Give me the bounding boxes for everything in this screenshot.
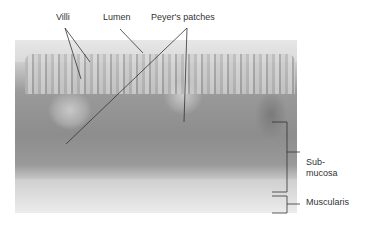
muscularis-bracket: [272, 196, 287, 213]
peyers-leader-1: [66, 28, 187, 144]
villi-leader-1: [65, 28, 90, 62]
villi-leader-2: [65, 28, 81, 79]
lumen-leader: [120, 29, 143, 53]
peyers-leader-2: [184, 28, 187, 122]
submucosa-bracket: [272, 122, 287, 192]
leader-lines: [0, 0, 375, 225]
